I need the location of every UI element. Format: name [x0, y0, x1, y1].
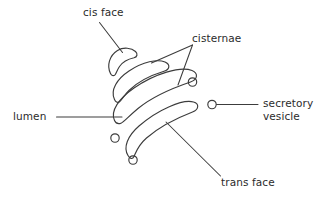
vesicle-secretory — [208, 100, 216, 108]
vesicle-lower-left — [111, 134, 119, 142]
label-secretory-vesicle: secretoryvesicle — [263, 97, 313, 122]
label-secretory-vesicle-line1: secretory — [263, 97, 313, 109]
golgi-apparatus-diagram: cis face cisternae lumen secretoryvesicl… — [0, 0, 327, 200]
leader-line-cis-face — [100, 23, 123, 53]
label-cis-face: cis face — [83, 6, 124, 19]
label-secretory-vesicle-line2: vesicle — [263, 110, 300, 122]
label-lumen: lumen — [13, 110, 46, 123]
leader-line-cisternae-upper — [152, 45, 193, 63]
label-cisternae: cisternae — [192, 32, 241, 45]
leader-line-trans-face — [166, 122, 221, 176]
cisterna-2 — [113, 61, 169, 103]
label-trans-face: trans face — [221, 176, 275, 189]
